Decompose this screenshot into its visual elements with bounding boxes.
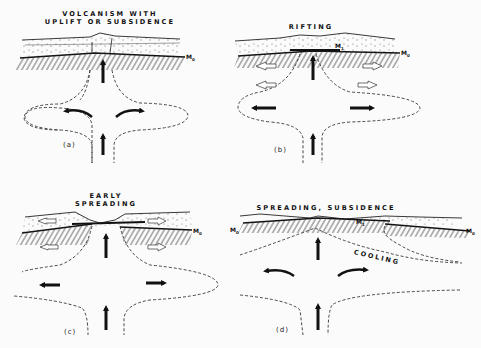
moho-label: M1	[335, 42, 344, 51]
plume-outline	[24, 70, 92, 163]
title-line: VOLCANISM WITH	[40, 10, 180, 18]
curved-arrow-left-icon	[66, 110, 92, 117]
moho-label: M1	[356, 218, 365, 227]
panel-d-title: SPREADING, SUBSIDENCE	[256, 204, 396, 212]
panel-d	[238, 214, 470, 335]
panel-d-label: (d)	[276, 326, 289, 334]
title-line: SPREADING	[66, 200, 146, 208]
title-line: EARLY	[66, 192, 146, 200]
moho-label: M0	[401, 49, 410, 58]
curved-arrow-right-icon	[116, 110, 142, 117]
plume-outline	[240, 295, 303, 335]
moho-label: M0	[230, 226, 239, 235]
moho-label: M0	[193, 227, 202, 236]
panel-a	[15, 33, 188, 163]
panel-c	[14, 212, 218, 335]
panel-b-label: (b)	[274, 146, 287, 154]
panel-c-label: (c)	[64, 328, 76, 336]
moho-label: M0	[466, 227, 475, 236]
panel-a-title: VOLCANISM WITH UPLIFT OR SUBSIDENCE	[40, 10, 180, 26]
panel-c-title: EARLY SPREADING	[66, 192, 146, 208]
panel-b-title: RIFTING	[276, 23, 346, 31]
curved-arrow-right-icon	[338, 270, 366, 276]
title-line: UPLIFT OR SUBSIDENCE	[40, 18, 180, 26]
title-line: SPREADING, SUBSIDENCE	[256, 204, 396, 212]
panel-a-label: (a)	[63, 141, 76, 149]
curved-arrow-left-icon	[266, 270, 294, 276]
open-arrow-right-icon	[358, 81, 377, 89]
moho-label: M0	[186, 53, 195, 62]
title-line: RIFTING	[276, 23, 346, 31]
open-arrow-left-icon	[256, 81, 276, 89]
panel-b	[234, 33, 420, 163]
mantle-plume-rifting-figure: VOLCANISM WITH UPLIFT OR SUBSIDENCE RIFT…	[0, 0, 481, 348]
